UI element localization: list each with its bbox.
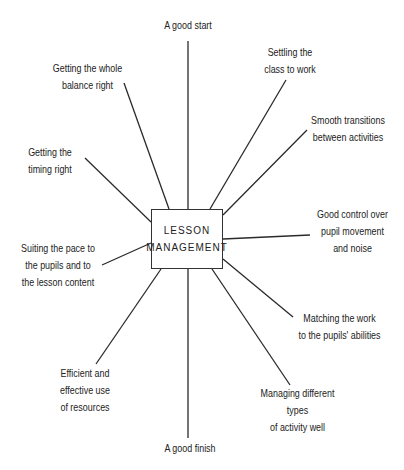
label-resources: Efficient and effective use of resources	[51, 365, 119, 416]
line-balance	[124, 83, 169, 209]
line-control	[223, 235, 310, 239]
label-pace: Suiting the pace to the pupils and to th…	[16, 240, 101, 291]
line-pace	[102, 243, 151, 265]
label-good-finish: A good finish	[156, 440, 224, 457]
line-activity-types	[212, 269, 290, 385]
label-activity-types: Managing different types of activity wel…	[257, 385, 338, 436]
label-timing: Getting the timing right	[20, 144, 80, 178]
label-settling: Settling the class to work	[252, 44, 329, 78]
label-transitions: Smooth transitions between activities	[306, 112, 391, 146]
center-line-1: LESSON	[164, 222, 211, 239]
label-good-start: A good start	[154, 17, 222, 34]
center-line-2: MANAGEMENT	[146, 239, 228, 256]
label-matching: Matching the work to the pupils' abiliti…	[291, 310, 389, 344]
label-control: Good control over pupil movement and noi…	[312, 206, 393, 257]
line-matching	[223, 259, 293, 317]
line-timing	[85, 158, 151, 222]
line-transitions	[223, 130, 307, 215]
line-resources	[96, 269, 161, 364]
lesson-management-box: LESSON MANAGEMENT	[151, 209, 223, 269]
label-balance: Getting the whole balance right	[47, 60, 128, 94]
